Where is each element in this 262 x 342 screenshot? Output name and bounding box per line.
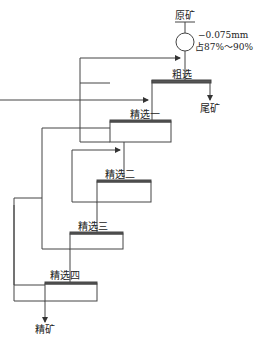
concentrate-label: 精矿 [35, 323, 55, 335]
grind-spec-line1: −0.075mm [198, 30, 249, 40]
stage-label-rougher: 粗选 [172, 68, 192, 80]
stage-label-cleaner1: 精选一 [130, 108, 160, 120]
rougher-cell [152, 80, 211, 83]
grind-spec-line2: 占87%～90% [195, 41, 253, 52]
feed-label: 原矿 [175, 9, 195, 21]
stage-label-cleaner4: 精选四 [50, 269, 80, 281]
stage-label-cleaner3: 精选三 [78, 220, 108, 232]
grinding-icon [176, 33, 194, 51]
flowsheet-diagram: 原矿 −0.075mm 占87%～90% 粗选 尾矿 精选一 精选二 精选三 精… [0, 0, 262, 342]
stage-label-cleaner2: 精选二 [105, 168, 135, 180]
tailings-label: 尾矿 [200, 102, 220, 114]
